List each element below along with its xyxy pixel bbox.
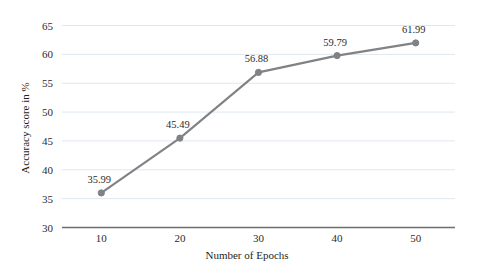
- x-tick-label: 40: [332, 232, 344, 244]
- data-point-marker: [413, 40, 419, 46]
- x-tick-label: 10: [96, 232, 108, 244]
- y-tick-label: 65: [42, 20, 54, 32]
- data-point-marker: [255, 69, 261, 75]
- y-tick-label: 55: [42, 77, 54, 89]
- y-tick-label: 40: [42, 164, 54, 176]
- y-tick-label: 50: [42, 106, 54, 118]
- data-point-marker: [334, 53, 340, 59]
- y-tick-label: 35: [42, 193, 54, 205]
- data-point-label: 61.99: [402, 24, 426, 35]
- y-tick-label: 30: [42, 222, 54, 234]
- x-tick-label: 20: [174, 232, 186, 244]
- chart-canvas: 3035404550556065 1020304050 35.9945.4956…: [0, 0, 478, 275]
- data-point-marker: [177, 135, 183, 141]
- y-tick-label: 45: [42, 135, 54, 147]
- y-axis-title: Accuracy score in %: [19, 82, 31, 173]
- data-point-marker: [98, 190, 104, 196]
- line-chart: 3035404550556065 1020304050 35.9945.4956…: [0, 0, 478, 275]
- data-point-label: 45.49: [166, 119, 190, 130]
- x-tick-label: 50: [410, 232, 422, 244]
- x-tick-label: 30: [253, 232, 265, 244]
- data-point-label: 35.99: [87, 174, 111, 185]
- x-axis-title: Number of Epochs: [205, 249, 288, 261]
- data-point-label: 59.79: [323, 37, 347, 48]
- y-tick-label: 60: [42, 48, 54, 60]
- chart-background: [0, 0, 478, 275]
- data-point-label: 56.88: [245, 53, 269, 64]
